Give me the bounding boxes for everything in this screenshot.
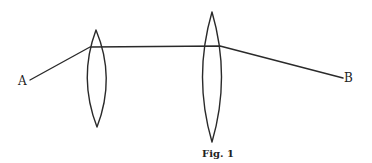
first-lens	[87, 30, 106, 127]
figure-caption: Fig. 1	[202, 148, 234, 159]
point-b-label: B	[344, 71, 353, 85]
light-ray	[30, 46, 343, 80]
second-lens	[203, 12, 222, 142]
lens-diagram: A B Fig. 1	[0, 0, 372, 163]
point-a-label: A	[17, 74, 27, 88]
